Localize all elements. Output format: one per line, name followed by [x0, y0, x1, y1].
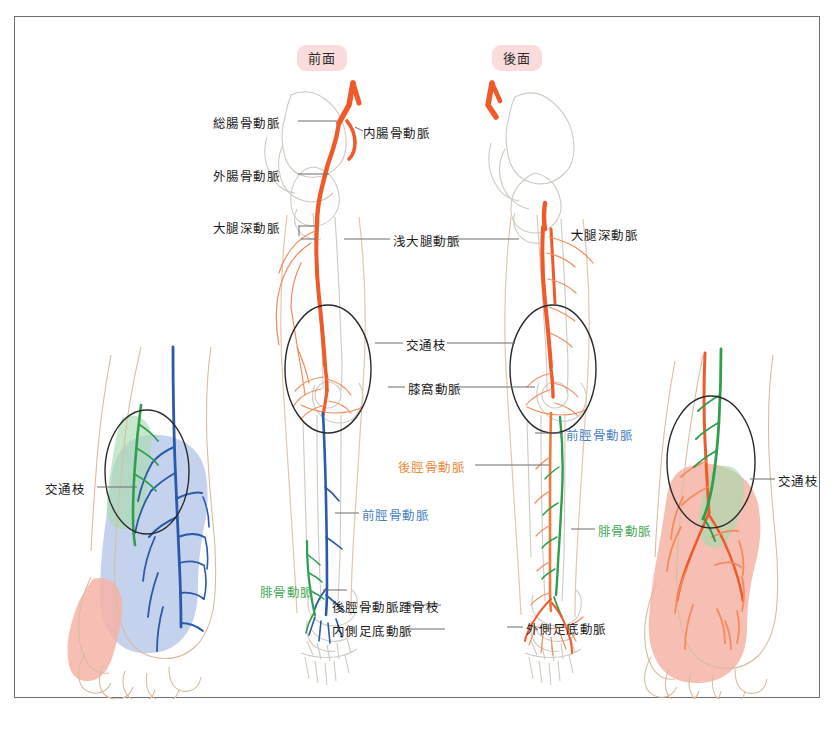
label-superficial-femoral-artery: 浅大腿動脈 — [393, 231, 460, 250]
label-anterior-tibial-artery-upper: 前脛骨動脈 — [566, 425, 633, 444]
figure-canvas: 前面 後面 総腸骨動脈 内腸骨動脈 外腸骨動脈 大腿深動脈 浅大腿動脈 大腿深動… — [0, 0, 835, 729]
label-calcaneal-branch: 後脛骨動脈踵骨枝 — [332, 597, 439, 616]
label-external-iliac-artery: 外腸骨動脈 — [213, 166, 280, 185]
label-deep-femoral-artery-right: 大腿深動脈 — [571, 225, 638, 244]
left-foot-group — [67, 347, 215, 699]
label-communicating-branch-left-foot: 交通枝 — [45, 479, 85, 498]
label-medial-plantar-artery: 内側足底動脈 — [332, 621, 412, 640]
label-peroneal-artery-left: 腓骨動脈 — [260, 582, 314, 601]
label-posterior-tibial-artery: 後脛骨動脈 — [398, 457, 465, 476]
badge-anterior: 前面 — [297, 45, 347, 71]
label-common-iliac-artery: 総腸骨動脈 — [213, 113, 280, 132]
right-foot-group — [645, 349, 778, 699]
label-communicating-branch-right-foot: 交通枝 — [778, 471, 818, 490]
label-deep-femoral-artery-left: 大腿深動脈 — [213, 218, 280, 237]
label-communicating-branch-center: 交通枝 — [406, 335, 446, 354]
figure-frame: 前面 後面 総腸骨動脈 内腸骨動脈 外腸骨動脈 大腿深動脈 浅大腿動脈 大腿深動… — [14, 16, 820, 698]
label-peroneal-artery-right: 腓骨動脈 — [598, 521, 652, 540]
posterior-limb-group — [488, 83, 596, 685]
label-internal-iliac-artery: 内腸骨動脈 — [363, 123, 430, 142]
label-lateral-plantar-artery: 外側足底動脈 — [526, 619, 606, 638]
badge-posterior: 後面 — [492, 45, 542, 71]
label-popliteal-artery: 膝窩動脈 — [408, 379, 462, 398]
label-anterior-tibial-artery-lower: 前脛骨動脈 — [362, 505, 429, 524]
